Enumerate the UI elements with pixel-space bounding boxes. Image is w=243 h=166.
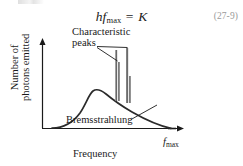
characteristic-peak-spikes xyxy=(115,48,131,103)
xray-spectrum-figure: Number ofphotons emitted Characteristicp… xyxy=(0,0,243,166)
characteristic-peaks-line2: peaks xyxy=(72,37,130,48)
characteristic-peaks-line1: Characteristic xyxy=(72,26,130,37)
characteristic-peaks-annotation: Characteristicpeaks xyxy=(72,26,130,49)
characteristic-peaks-leader-lines xyxy=(97,47,128,62)
y-axis-label-line1: Number of xyxy=(9,19,20,115)
y-axis-label: Number ofphotons emitted xyxy=(9,19,32,115)
x-axis-label: Frequency xyxy=(73,148,117,159)
fmax-subscript: max xyxy=(166,140,179,149)
y-axis-label-line2: photons emitted xyxy=(20,19,31,115)
leader-line-group-1 xyxy=(97,48,118,62)
bremsstrahlung-leader-line xyxy=(131,105,157,120)
x-axis-fmax-label: fmax xyxy=(163,136,179,147)
peak-spike-3 xyxy=(126,48,128,103)
bremsstrahlung-annotation: Bremsstrahlung xyxy=(66,114,133,125)
peak-spike-4 xyxy=(129,76,131,103)
peak-spike-2 xyxy=(118,62,120,101)
figure-page: hfmax = K (27-9) xyxy=(0,0,243,166)
peak-spike-1 xyxy=(115,50,117,101)
